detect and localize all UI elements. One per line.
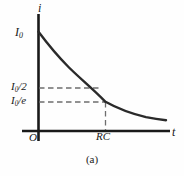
exponential-decay-figure: i t I0 I0/2 I0/e O RC (a) — [0, 0, 184, 176]
time-constant-label: RC — [96, 131, 110, 142]
half-current-label: I0/2 — [11, 81, 27, 94]
plot-canvas — [0, 0, 184, 176]
half-current-suffix: /2 — [18, 80, 27, 92]
y-axis-label: i — [38, 2, 41, 14]
decay-curve — [39, 32, 167, 120]
e-current-suffix: /e — [18, 94, 26, 106]
peak-current-label: I0 — [15, 26, 23, 40]
figure-caption: (a) — [0, 153, 184, 165]
x-axis-label: t — [172, 126, 175, 138]
peak-current-subscript: 0 — [19, 31, 23, 40]
e-current-label: I0/e — [11, 95, 26, 108]
origin-label: O — [29, 132, 37, 143]
